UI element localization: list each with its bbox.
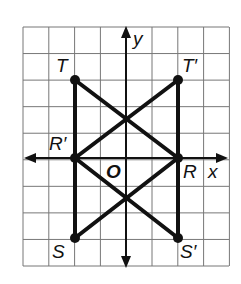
label-T: T bbox=[56, 55, 69, 76]
point-R bbox=[173, 153, 183, 163]
point-R-prime bbox=[70, 153, 80, 163]
y-axis-up-arrow-icon bbox=[121, 26, 131, 38]
x-axis-label: x bbox=[207, 161, 219, 182]
label-S: S bbox=[52, 241, 65, 262]
y-axis-label: y bbox=[131, 28, 144, 49]
label-R: R bbox=[183, 161, 197, 182]
origin-label: O bbox=[106, 161, 121, 182]
label-S-prime: S′ bbox=[180, 241, 198, 262]
x-axis-right-arrow-icon bbox=[216, 153, 228, 163]
label-T-prime: T′ bbox=[182, 55, 199, 76]
point-T-prime bbox=[173, 75, 183, 85]
y-axis bbox=[121, 26, 131, 268]
point-T bbox=[70, 75, 80, 85]
coordinate-figure: TT′R′RSS′ y x O bbox=[0, 0, 241, 284]
point-S bbox=[70, 233, 80, 243]
label-R-prime: R′ bbox=[49, 133, 68, 154]
x-axis-left-arrow-icon bbox=[24, 153, 36, 163]
